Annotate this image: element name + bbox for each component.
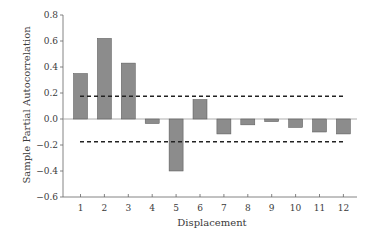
bar: [289, 119, 303, 127]
bar: [241, 119, 255, 125]
x-tick-label: 3: [125, 203, 131, 213]
x-tick-label: 2: [102, 203, 108, 213]
y-tick-label: −0.6: [36, 192, 58, 202]
bar: [121, 63, 135, 119]
x-tick-label: 4: [149, 203, 155, 213]
bar: [97, 38, 111, 119]
y-tick-label: −0.4: [36, 166, 58, 176]
bar: [145, 119, 159, 124]
x-tick-label: 9: [269, 203, 275, 213]
y-tick-label: 0.2: [44, 88, 58, 98]
bar: [336, 119, 350, 134]
y-tick-label: 0.6: [44, 36, 59, 46]
x-tick-label: 8: [245, 203, 251, 213]
bar: [265, 119, 279, 122]
x-axis-title: Displacement: [177, 217, 246, 228]
pacf-chart: 0.80.60.40.20.0−0.2−0.4−0.61234567891011…: [0, 0, 376, 231]
bar: [193, 100, 207, 120]
bar: [313, 119, 327, 132]
x-tick-label: 6: [197, 203, 203, 213]
y-tick-label: 0.0: [44, 114, 59, 124]
y-tick-label: 0.4: [44, 62, 59, 72]
x-tick-label: 12: [338, 203, 349, 213]
bar: [169, 119, 183, 171]
x-tick-label: 7: [221, 203, 227, 213]
y-axis-title: Sample Partial Autocorrelation: [21, 26, 32, 184]
x-tick-label: 1: [78, 203, 84, 213]
x-tick-label: 5: [173, 203, 179, 213]
y-tick-label: −0.2: [36, 140, 58, 150]
y-tick-label: 0.8: [44, 10, 59, 20]
bar: [217, 119, 231, 134]
x-tick-label: 11: [314, 203, 325, 213]
x-tick-label: 10: [290, 203, 302, 213]
plot-area: 0.80.60.40.20.0−0.2−0.4−0.61234567891011…: [36, 10, 357, 213]
